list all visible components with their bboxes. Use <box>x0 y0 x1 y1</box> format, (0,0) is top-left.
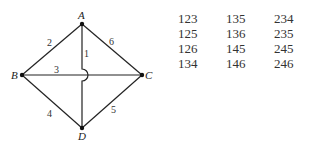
table-cell: 145 <box>226 41 274 56</box>
vertex-label-c: C <box>145 69 153 81</box>
table-cell: 234 <box>274 11 311 26</box>
edge-5 <box>82 75 142 128</box>
table-cell: 246 <box>274 56 311 71</box>
edge-6 <box>82 24 142 75</box>
table-cell: 146 <box>226 56 274 71</box>
edge-label-6: 6 <box>109 36 114 47</box>
edge-1 <box>82 24 88 128</box>
table-cell: 245 <box>274 41 311 56</box>
graph-diagram: A B C D 1 2 3 4 5 6 <box>0 0 160 146</box>
table-cell: 235 <box>274 26 311 41</box>
table-cell: 135 <box>226 11 274 26</box>
edge-label-3: 3 <box>54 64 59 75</box>
table-cell: 125 <box>178 26 226 41</box>
vertex-label-b: B <box>11 69 18 81</box>
table-cell: 136 <box>226 26 274 41</box>
edge-label-5: 5 <box>111 104 116 115</box>
vertex-label-d: D <box>77 130 86 142</box>
edge-label-4: 4 <box>47 108 52 119</box>
vertex-b <box>20 73 24 77</box>
table-cell: 126 <box>178 41 226 56</box>
edge-4 <box>22 75 82 128</box>
vertex-a <box>80 22 84 26</box>
vertex-c <box>140 73 144 77</box>
edge-label-2: 2 <box>47 37 52 48</box>
combination-table: 123 135 234 125 136 235 126 145 245 134 … <box>178 11 311 71</box>
edge-2 <box>22 24 82 75</box>
vertex-label-a: A <box>77 9 85 21</box>
table-cell: 123 <box>178 11 226 26</box>
table-cell: 134 <box>178 56 226 71</box>
edge-label-1: 1 <box>84 48 89 59</box>
